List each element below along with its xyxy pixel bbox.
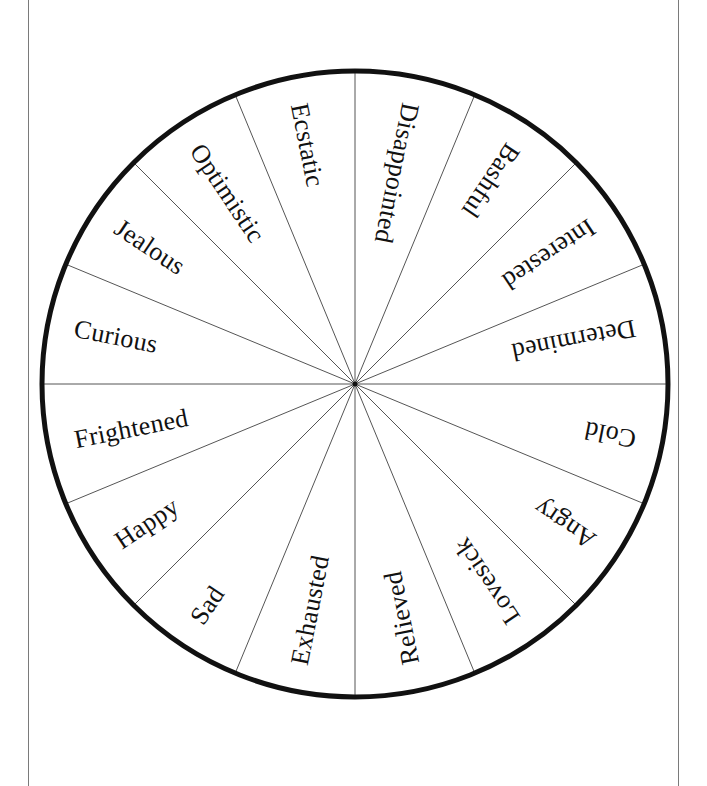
segment-label-ecstatic: Ecstatic [285, 101, 330, 190]
segment-label-frightened: Frightened [72, 403, 191, 454]
segment-label-cold: Cold [582, 415, 638, 454]
segment-label-determined: Determined [509, 314, 638, 367]
segment-label-happy: Happy [109, 491, 184, 554]
segment-label-bashful: Bashful [456, 138, 526, 223]
emotion-wheel: Disappointed Bashful Interested Determin… [0, 0, 707, 786]
segment-label-curious: Curious [72, 314, 160, 359]
segment-label-exhausted: Exhausted [285, 553, 335, 668]
segment-label-disappointed: Disappointed [369, 101, 425, 246]
wheel-center [353, 382, 358, 387]
segment-label-lovesick: Lovesick [448, 532, 526, 629]
segment-label-relieved: Relieved [378, 569, 425, 668]
segment-label-optimistic: Optimistic [184, 138, 271, 248]
segment-label-angry: Angry [528, 493, 601, 555]
segment-label-interested: Interested [497, 213, 601, 296]
segment-label-sad: Sad [184, 581, 230, 630]
segment-label-jealous: Jealous [109, 213, 190, 281]
